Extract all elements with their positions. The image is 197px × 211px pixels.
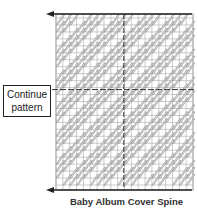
callout-line-1: Continue (4, 88, 50, 101)
callout-line-2: pattern (4, 101, 50, 114)
continue-pattern-callout: Continue pattern (3, 85, 51, 117)
bottom-left-arrow-icon (46, 187, 192, 193)
top-left-arrow-icon (46, 11, 192, 17)
diagram-title: Baby Album Cover Spine (56, 196, 197, 207)
